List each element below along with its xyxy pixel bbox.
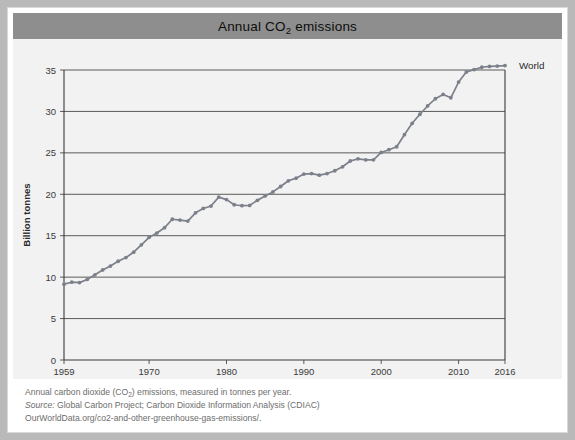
- data-point: [279, 185, 283, 189]
- source-text: Global Carbon Project; Carbon Dioxide In…: [55, 400, 320, 410]
- data-point: [186, 219, 190, 223]
- data-point: [449, 96, 453, 100]
- data-point: [372, 158, 376, 162]
- footnote-line-2: Source: Global Carbon Project; Carbon Di…: [25, 399, 545, 411]
- data-point: [317, 173, 321, 177]
- data-point: [109, 264, 113, 268]
- data-point: [333, 169, 337, 173]
- data-point: [85, 278, 89, 282]
- data-point: [480, 65, 484, 69]
- data-point: [464, 70, 468, 74]
- series-legend-label: World: [519, 60, 544, 71]
- chart-plot-area: 0510152025303519591970198019902000201020…: [13, 39, 562, 379]
- data-point: [225, 198, 229, 202]
- y-tick-label: 20: [45, 189, 56, 200]
- data-point: [457, 80, 461, 84]
- data-point: [256, 198, 260, 202]
- data-point: [147, 235, 151, 239]
- y-tick-label: 25: [45, 147, 56, 158]
- y-tick-label: 35: [45, 65, 56, 76]
- data-point: [93, 273, 97, 277]
- data-point: [294, 176, 298, 180]
- data-point: [488, 65, 492, 69]
- data-point: [170, 217, 174, 221]
- data-point: [155, 231, 159, 235]
- x-tick-label: 1970: [139, 366, 160, 377]
- data-point: [395, 145, 399, 149]
- line-chart: 0510152025303519591970198019902000201020…: [13, 39, 562, 379]
- data-point: [341, 165, 345, 169]
- chart-title-prefix: Annual CO: [218, 19, 286, 34]
- data-point: [271, 190, 275, 194]
- data-point: [209, 204, 213, 208]
- data-point: [433, 97, 437, 101]
- data-point: [217, 195, 221, 199]
- data-point: [302, 172, 306, 176]
- x-tick-label: 1990: [293, 366, 314, 377]
- x-tick-label: 2000: [371, 366, 392, 377]
- data-point: [263, 194, 267, 198]
- y-axis-label: Billion tonnes: [21, 183, 32, 246]
- data-point: [286, 179, 290, 183]
- data-point: [495, 64, 499, 68]
- page-title: Annual CO2 emissions: [218, 19, 357, 34]
- data-point: [78, 281, 82, 285]
- data-point: [441, 93, 445, 97]
- data-point: [418, 112, 422, 116]
- data-point: [124, 256, 128, 260]
- data-point: [356, 157, 360, 161]
- data-point: [364, 158, 368, 162]
- data-point: [70, 280, 74, 284]
- data-point: [310, 172, 314, 176]
- footnote-line-1: Annual carbon dioxide (CO2) emissions, m…: [25, 386, 545, 399]
- data-point: [472, 68, 476, 72]
- data-point: [240, 204, 244, 208]
- data-point: [379, 151, 383, 155]
- series-line-world: [64, 66, 505, 285]
- chart-card: Annual CO2 emissions 0510152025303519591…: [7, 7, 568, 433]
- data-point: [132, 250, 136, 254]
- data-point: [178, 218, 182, 222]
- data-point: [387, 148, 391, 152]
- data-point: [426, 104, 430, 108]
- y-tick-label: 0: [51, 355, 56, 366]
- chart-title-subscript: 2: [286, 25, 291, 36]
- data-point: [201, 207, 205, 211]
- data-point: [139, 243, 143, 247]
- x-tick-label: 2010: [448, 366, 469, 377]
- footnote-line-3: OurWorldData.org/co2-and-other-greenhous…: [25, 412, 545, 424]
- chart-footnote: Annual carbon dioxide (CO2) emissions, m…: [25, 386, 545, 424]
- data-point: [101, 268, 105, 272]
- chart-title-suffix: emissions: [291, 19, 357, 34]
- data-point: [503, 64, 507, 68]
- footnote-line-1-b: ) emissions, measured in tonnes per year…: [132, 387, 292, 397]
- data-point: [62, 282, 66, 286]
- footnote-line-1-a: Annual carbon dioxide (CO: [25, 387, 128, 397]
- data-point: [232, 203, 236, 207]
- data-point: [348, 159, 352, 163]
- data-point: [194, 211, 198, 215]
- y-tick-label: 30: [45, 106, 56, 117]
- footnote-subscript: 2: [128, 391, 132, 398]
- x-tick-label: 1980: [216, 366, 237, 377]
- data-point: [403, 133, 407, 137]
- data-point: [410, 121, 414, 125]
- y-tick-label: 10: [45, 272, 56, 283]
- data-point: [163, 226, 167, 230]
- data-point: [325, 172, 329, 176]
- chart-title-bar: Annual CO2 emissions: [13, 13, 562, 39]
- y-tick-label: 5: [51, 313, 56, 324]
- y-tick-label: 15: [45, 230, 56, 241]
- x-tick-label: 1959: [53, 366, 74, 377]
- x-tick-label: 2016: [494, 366, 515, 377]
- data-point: [248, 203, 252, 207]
- source-label: Source:: [25, 400, 55, 410]
- data-point: [116, 259, 120, 263]
